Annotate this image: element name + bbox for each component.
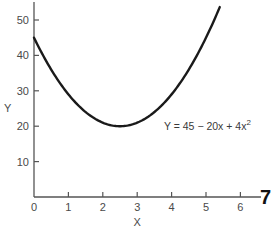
x-tick-label: 1	[65, 201, 71, 213]
y-tick-label: 10	[17, 156, 29, 168]
x-tick-label: 3	[134, 201, 140, 213]
x-tick-label: 2	[100, 201, 106, 213]
y-tick-label: 30	[17, 85, 29, 97]
y-axis-label: Y	[4, 102, 12, 114]
y-tick-label: 20	[17, 120, 29, 132]
curve-line	[34, 7, 220, 126]
x-axis-label: X	[134, 216, 142, 228]
x-tick-label: 0	[31, 201, 37, 213]
chart: 10203040500123456XYY = 45 − 20x + 4x27	[0, 0, 271, 234]
x-tick-label: 5	[203, 201, 209, 213]
x-tick-label: 4	[169, 201, 175, 213]
axes	[34, 2, 261, 197]
y-tick-label: 40	[17, 49, 29, 61]
x-tick-label: 6	[237, 201, 243, 213]
page-number-fragment: 7	[260, 186, 271, 208]
equation-annotation: Y = 45 − 20x + 4x2	[164, 118, 251, 132]
y-tick-label: 50	[17, 14, 29, 26]
